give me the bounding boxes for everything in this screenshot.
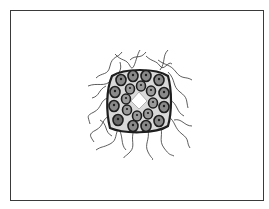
cell-cluster-illustration bbox=[0, 0, 269, 209]
